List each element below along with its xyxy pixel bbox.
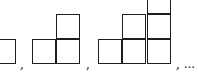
figure-1-cell [0,39,16,64]
separator-2: , [86,58,90,70]
figure-2-cell [32,39,56,64]
figure-2-cell [56,39,80,64]
separator-ellipsis: , ... [176,58,195,70]
figure-3-cell [122,14,146,39]
figure-3-cell [98,39,122,64]
figure-2-cell [56,14,80,39]
figure-3-cell [147,39,171,64]
figure-3-cell [122,39,146,64]
separator-1: , [20,58,24,70]
staircase-sequence-diagram: , , , ... [0,0,198,73]
figure-3-cell [147,14,171,39]
figure-3-cell [147,0,171,14]
